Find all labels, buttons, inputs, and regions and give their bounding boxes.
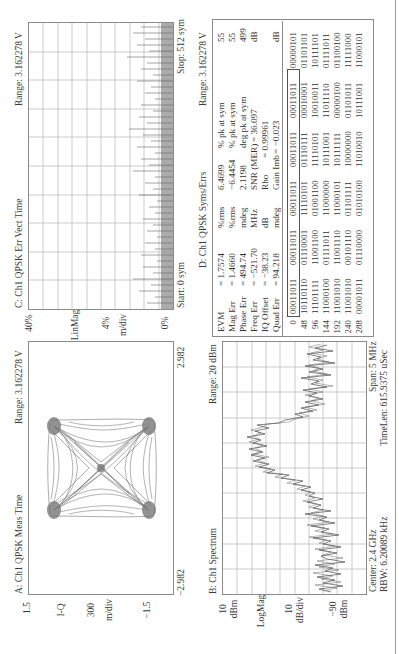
panel-a-y-scale-unit: m/div — [104, 596, 114, 624]
panel-b-span: Span: 5 MHz — [368, 341, 378, 392]
page-edge-line — [395, 0, 396, 654]
panel-b-plot[interactable] — [222, 341, 367, 595]
panel-b-y-scale-unit: dB/div — [295, 594, 305, 626]
panel-b-center: Center: 2.4 GHz — [368, 529, 378, 592]
panel-a-x-right: 2.982 — [176, 347, 186, 368]
panel-a-y-top: 1.5 — [22, 596, 32, 620]
error-vector-trace — [29, 23, 173, 309]
panel-c-plot[interactable] — [28, 22, 174, 310]
panel-d-divider — [282, 21, 283, 337]
panel-b-y-mode: LogMag — [256, 594, 266, 628]
panel-c-y-scale: 4% — [101, 310, 111, 336]
panel-b-range: Range: 20 dBm — [208, 344, 218, 404]
panel-a-y-scale: 300 — [86, 598, 96, 622]
panel-b-rbw: RBW: 6.20089 kHz — [379, 517, 389, 592]
panel-b-y-bottom-unit: dBm — [339, 596, 349, 622]
panel-c-start: Start: 0 sym — [176, 262, 186, 308]
panel-a-title: A: Ch1 QPSK Meas Time — [14, 495, 24, 594]
panel-a-plot[interactable] — [28, 341, 174, 595]
panel-d-range: Range: 3.162278 V — [198, 32, 208, 106]
panel-a-y-unit: I-Q — [56, 598, 66, 622]
panel-c-y-top: 40% — [24, 310, 34, 336]
panel-b-y-top: 10 — [218, 596, 228, 622]
panel-c-title: C: Ch1 QPSK Err Vect Time — [14, 199, 24, 308]
spectrum-trace — [223, 342, 366, 594]
panel-a-range: Range: 3.162278 V — [14, 350, 24, 424]
panel-d-title: D: Ch1 QPSK Syms/Errs — [198, 172, 208, 268]
panel-b-y-bottom: −90 — [328, 596, 338, 622]
panel-a-y-bottom: −1.5 — [142, 596, 152, 624]
panel-a-x-left: −2.982 — [176, 569, 186, 596]
panel-b-y-top-unit: dBm — [229, 596, 239, 622]
panel-b-title: B: Ch1 Spectrum — [208, 528, 218, 594]
panel-b-timelen: TimeLen: 615.9375 uSec — [379, 350, 389, 446]
panel-c-y-mode: LinMag — [70, 308, 80, 342]
panel-c-stop: Stop: 512 sym — [176, 19, 186, 74]
panel-c-range: Range: 3.162278 V — [14, 32, 24, 106]
vsa-display: A: Ch1 QPSK Meas Time Range: 3.162278 V — [0, 0, 399, 654]
panel-b-y-scale: 10 — [284, 596, 294, 622]
panel-c-y-bottom: 0% — [160, 310, 170, 336]
constellation-trace — [29, 342, 173, 594]
panel-c-y-scale-unit: m/div — [118, 310, 128, 340]
